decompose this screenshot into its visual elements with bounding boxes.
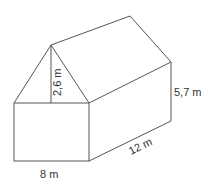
roof-eave-edge (89, 62, 171, 103)
width-label: 8 m (40, 168, 58, 180)
house-prism-diagram: 2,6 m 5,7 m 8 m 12 m (0, 0, 211, 186)
roof-ridge-edge (51, 16, 130, 45)
length-label: 12 m (127, 135, 154, 157)
wall-height-label: 5,7 m (174, 86, 202, 98)
roof-height-label: 2,6 m (51, 68, 63, 96)
front-wall-rectangle (14, 103, 89, 161)
back-roof-slope-edge (130, 16, 171, 62)
